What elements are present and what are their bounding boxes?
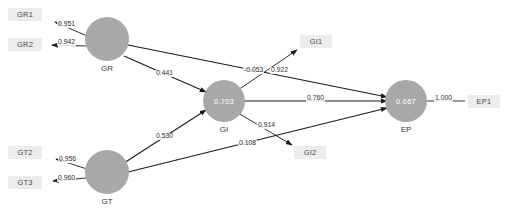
loading-gi-gi2: 0.914 [257, 122, 276, 129]
indicator-gr1: GR1 [8, 8, 42, 21]
edge-gt-ep [128, 108, 387, 172]
path-gr-ep: -0.053 [243, 67, 264, 74]
indicator-gt3-label: GT3 [17, 178, 32, 187]
construct-ep: 0.667 [385, 80, 427, 122]
indicator-gr1-label: GR1 [17, 10, 33, 19]
construct-gr [85, 17, 129, 61]
loading-gt-gt2: 0.956 [58, 156, 77, 163]
indicator-gi2-label: GI2 [304, 148, 317, 157]
path-gt-ep: 0.108 [238, 140, 257, 147]
loading-gr-gr2: 0.942 [57, 39, 76, 46]
path-gr-gi: 0.441 [155, 70, 174, 77]
indicator-ep1: EP1 [468, 95, 500, 108]
construct-ep-label: EP [385, 125, 427, 134]
indicator-gr2-label: GR2 [17, 40, 33, 49]
loading-gi-gi1: 0.922 [270, 67, 289, 74]
loading-ep-ep1: 1.000 [434, 95, 453, 102]
indicator-gi1-label: GI1 [310, 37, 323, 46]
construct-gi-label: GI [203, 125, 245, 134]
indicator-gt3: GT3 [8, 176, 42, 189]
construct-gi: 0.703 [203, 80, 245, 122]
path-gi-ep: 0.760 [306, 95, 325, 102]
construct-gr-label: GR [85, 64, 129, 73]
diagram-edges [0, 0, 510, 218]
construct-ep-value: 0.667 [396, 97, 416, 106]
loading-gt-gt3: 0.960 [57, 175, 76, 182]
construct-gt [85, 150, 129, 194]
path-diagram-canvas: GR1 GR2 GT2 GT3 GI1 GI2 EP1 GR GT 0.703 … [0, 0, 510, 218]
path-gt-gi: 0.530 [155, 133, 174, 140]
indicator-gi1: GI1 [300, 35, 332, 48]
indicator-gt2: GT2 [8, 146, 42, 159]
loading-gr-gr1: 0.951 [57, 21, 76, 28]
construct-gt-label: GT [85, 197, 129, 206]
construct-gi-value: 0.703 [214, 97, 234, 106]
indicator-ep1-label: EP1 [477, 97, 492, 106]
indicator-gi2: GI2 [294, 146, 326, 159]
indicator-gr2: GR2 [8, 38, 42, 51]
indicator-gt2-label: GT2 [17, 148, 32, 157]
